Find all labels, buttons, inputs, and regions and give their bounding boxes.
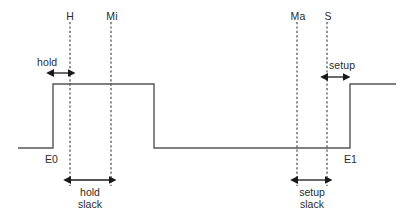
measurement-arrows-group	[54, 73, 344, 180]
setup-slack-label-line2: slack	[299, 198, 325, 210]
waveform-trace	[18, 84, 396, 148]
marker-label-hold: H	[66, 11, 74, 22]
marker-label-setup: S	[324, 11, 331, 22]
marker-lines-group	[70, 22, 327, 186]
setup-slack-label: setup slack	[299, 186, 325, 210]
hold-slack-label-line1: hold	[78, 186, 102, 198]
hold-interval-label: hold	[37, 57, 57, 68]
marker-label-max: Ma	[291, 11, 306, 22]
setup-interval-label: setup	[329, 60, 355, 71]
timing-diagram-canvas: H Mi Ma S hold setup E0 E1 hold slack se…	[0, 0, 414, 218]
setup-slack-label-line1: setup	[299, 186, 325, 198]
event-label-e1: E1	[344, 154, 357, 165]
event-label-e0: E0	[45, 154, 58, 165]
marker-label-min: Mi	[106, 11, 117, 22]
hold-slack-label-line2: slack	[78, 198, 102, 210]
timing-diagram-graphic	[0, 0, 414, 218]
hold-slack-label: hold slack	[78, 186, 102, 210]
